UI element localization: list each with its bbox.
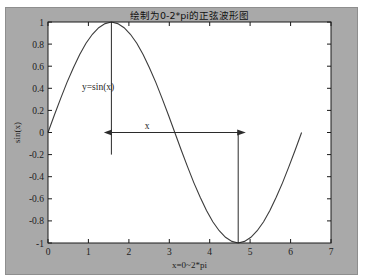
x-axis-title: x=0~2*pi — [172, 260, 207, 270]
sine-wave-chart: 绘制为0-2*pi的正弦波形图 1 0.8 0.6 0.4 0.2 0 -0.2… — [0, 0, 366, 280]
y-tick-label: 0.8 — [32, 40, 44, 50]
x-tick-label: 7 — [329, 247, 334, 257]
y-tick-label: -0.4 — [29, 172, 44, 182]
y-tick-label: 0.6 — [32, 62, 44, 72]
y-tick-label: -0.2 — [29, 150, 44, 160]
y-tick-label: -1 — [36, 239, 44, 249]
y-tick-label: 0.4 — [32, 84, 44, 94]
curve-label: y=sin(x) — [82, 82, 114, 93]
x-tick-label: 6 — [288, 247, 293, 257]
span-label: x — [145, 121, 150, 131]
x-tick-label: 3 — [167, 247, 172, 257]
x-tick-label: 1 — [86, 247, 91, 257]
x-tick-label: 0 — [46, 247, 51, 257]
chart-title: 绘制为0-2*pi的正弦波形图 — [130, 10, 249, 21]
x-tick-label: 2 — [127, 247, 132, 257]
x-tick-label: 5 — [248, 247, 253, 257]
y-tick-label: -0.6 — [29, 194, 44, 204]
y-tick-label: 0.2 — [32, 106, 44, 116]
y-axis-title: sin(x) — [12, 122, 22, 143]
y-tick-label: -0.8 — [29, 216, 44, 226]
y-tick-label: 1 — [39, 18, 44, 28]
y-tick-label: 0 — [39, 128, 44, 138]
x-tick-label: 4 — [207, 247, 212, 257]
